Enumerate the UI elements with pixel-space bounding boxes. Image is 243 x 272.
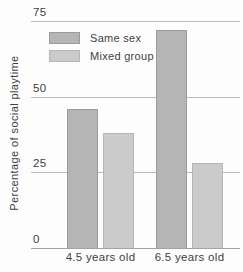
x-category-label-6-5-years-old: 6.5 years old [155, 251, 225, 263]
bar-same-sex-4-5-years-old [67, 109, 98, 248]
bar-same-sex-6-5-years-old [156, 30, 187, 248]
y-tick-label-75: 75 [33, 5, 46, 19]
legend-item-same-sex: Same sex [49, 32, 154, 44]
legend-label-mixed-group: Mixed group [90, 50, 154, 62]
legend-swatch-same-sex [49, 32, 80, 44]
bar-mixed-group-4-5-years-old [103, 133, 134, 248]
bar-chart-figure: Percentage of social playtime 0255075 Sa… [0, 0, 243, 272]
x-category-label-4-5-years-old: 4.5 years old [66, 251, 136, 263]
legend-swatch-mixed-group [49, 50, 80, 62]
y-tick-label-50: 50 [33, 81, 46, 95]
gridline-75 [31, 21, 240, 22]
bar-mixed-group-6-5-years-old [192, 163, 223, 248]
y-axis-title: Percentage of social playtime [8, 55, 20, 210]
legend-item-mixed-group: Mixed group [49, 50, 154, 62]
legend: Same sexMixed group [49, 32, 154, 68]
y-tick-label-25: 25 [33, 156, 46, 170]
legend-label-same-sex: Same sex [90, 32, 141, 44]
y-tick-label-0: 0 [33, 232, 40, 246]
gridline-50 [31, 97, 240, 98]
